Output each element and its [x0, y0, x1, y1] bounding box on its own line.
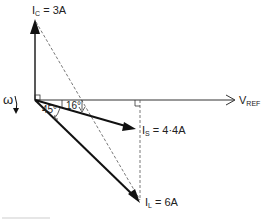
phasor-diagram: VREF IC = 3A IS = 4·4A IL = 6A 45° 16° ω — [0, 0, 272, 223]
omega-label: ω — [3, 92, 13, 107]
ic-label: IC = 3A — [32, 4, 67, 17]
faint-caption — [2, 217, 50, 219]
is-arrowhead-icon — [122, 122, 136, 131]
vref-label: VREF — [239, 94, 260, 107]
right-angle-marker — [135, 100, 140, 106]
angle-label-16: 16° — [66, 100, 81, 111]
angle-label-45: 45° — [42, 104, 57, 115]
is-label: IS = 4·4A — [142, 124, 186, 137]
il-label: IL = 6A — [145, 196, 179, 209]
